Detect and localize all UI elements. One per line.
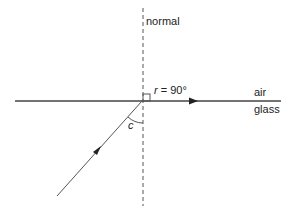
right-angle-marker [143, 94, 150, 101]
air-label: air [254, 87, 266, 98]
diagram-canvas [0, 0, 296, 211]
refracted-arrow-icon [189, 98, 198, 105]
refraction-angle-label: r = 90° [154, 85, 187, 96]
critical-angle-label: c [128, 120, 134, 131]
incident-arrow-icon [93, 146, 101, 155]
normal-label: normal [146, 16, 180, 27]
glass-label: glass [254, 104, 280, 115]
